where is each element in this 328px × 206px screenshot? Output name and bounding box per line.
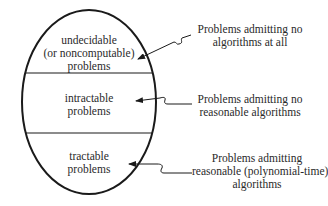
region-text: (or noncomputable)	[39, 47, 139, 60]
region-text: undecidable	[39, 34, 139, 47]
arrow-undecidable	[138, 35, 191, 59]
region-text: problems	[39, 163, 139, 176]
annotation-text: reasonable (polynomial-time)	[192, 165, 322, 178]
region-text: problems	[39, 60, 139, 73]
arrow-intractable	[136, 97, 192, 104]
annotation-text: Problems admitting no	[192, 23, 308, 36]
annotation-tractable: Problems admitting reasonable (polynomia…	[192, 152, 322, 191]
annotation-text: Problems admitting	[192, 152, 322, 165]
region-text: problems	[39, 105, 139, 118]
region-text: intractable	[39, 92, 139, 105]
region-label-undecidable: undecidable (or noncomputable) problems	[39, 34, 139, 73]
annotation-text: Problems admitting no	[192, 93, 308, 106]
annotation-text: algorithms	[192, 178, 322, 191]
annotation-intractable: Problems admitting no reasonable algorit…	[192, 93, 308, 119]
region-label-tractable: tractable problems	[39, 150, 139, 176]
annotation-text: reasonable algorithms	[192, 106, 308, 119]
annotation-text: algorithms at all	[192, 36, 308, 49]
region-text: tractable	[39, 150, 139, 163]
annotation-undecidable: Problems admitting no algorithms at all	[192, 23, 308, 49]
region-label-intractable: intractable problems	[39, 92, 139, 118]
problem-classification-diagram: undecidable (or noncomputable) problems …	[0, 0, 328, 206]
